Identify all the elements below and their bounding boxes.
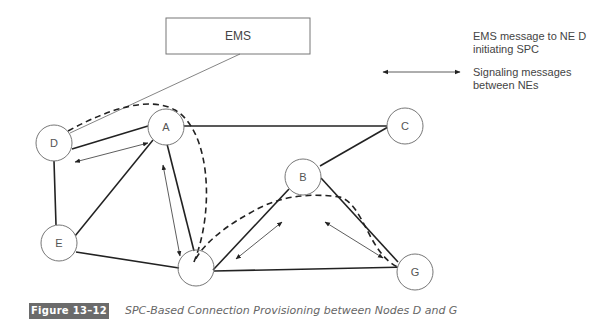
signal-arrow-b-g — [325, 222, 383, 258]
link-e-a — [75, 140, 153, 236]
signal-arrow-f-b — [236, 222, 282, 259]
legend-signaling: Signaling messages between NEs — [473, 66, 571, 92]
node-g-label: G — [411, 266, 420, 278]
legend-ems-message: EMS message to NE D initiating SPC — [473, 30, 586, 56]
legend-signaling-line1: Signaling messages — [473, 66, 571, 79]
legend-signaling-line2: between NEs — [473, 79, 571, 92]
node-b-label: B — [299, 171, 306, 183]
link-d-a — [72, 126, 148, 149]
figure-caption: SPC-Based Connection Provisioning betwee… — [125, 303, 457, 319]
node-f — [178, 250, 214, 286]
link-f-g — [214, 267, 408, 271]
node-c-label: C — [401, 120, 409, 132]
ems-label: EMS — [225, 29, 251, 43]
link-d-e — [54, 161, 56, 225]
link-b-c — [320, 127, 388, 166]
node-e-label: E — [55, 237, 62, 249]
legend-ems-line1: EMS message to NE D — [473, 30, 586, 43]
node-d-label: D — [50, 137, 58, 149]
legend-ems-line2: initiating SPC — [473, 43, 586, 56]
link-a-f — [167, 144, 194, 251]
link-e-f — [76, 252, 179, 268]
signal-arrow-a-f — [163, 165, 180, 256]
spc-connection-path — [68, 104, 400, 268]
node-a-label: A — [162, 121, 170, 133]
figure-number-badge: Figure 13–12 — [29, 303, 109, 319]
link-b-g — [321, 178, 398, 262]
